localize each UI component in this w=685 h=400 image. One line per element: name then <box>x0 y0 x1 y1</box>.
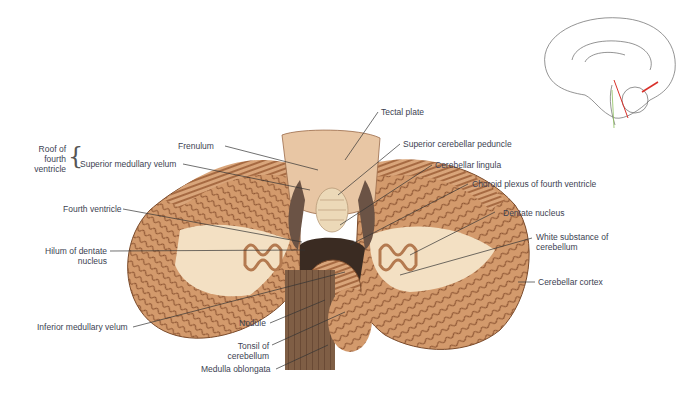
hilum-line-2: nucleus <box>30 256 107 266</box>
white-substance-line-1: White substance of <box>536 232 608 242</box>
label-hilum-of-dentate-nucleus: Hilum of dentate nucleus <box>30 246 107 266</box>
label-cerebellar-cortex: Cerebellar cortex <box>538 277 603 287</box>
label-fourth-ventricle: Fourth ventricle <box>63 204 122 214</box>
label-medulla-oblongata: Medulla oblongata <box>201 364 270 374</box>
midbrain <box>282 130 380 250</box>
anatomy-figure: Tectal plate Frenulum Superior cerebella… <box>0 0 685 400</box>
tonsil <box>328 288 372 352</box>
label-cerebellar-lingula: Cerebellar lingula <box>435 160 501 170</box>
tonsil-line-2: cerebellum <box>224 351 269 361</box>
label-choroid-plexus: Choroid plexus of fourth ventricle <box>472 179 596 189</box>
label-dentate-nucleus: Dentate nucleus <box>503 208 564 218</box>
label-superior-medullary-velum: Superior medullary velum <box>80 159 176 169</box>
tonsil-line-1: Tonsil of <box>224 341 269 351</box>
left-hemisphere <box>128 160 300 338</box>
roof-line-3: ventricle <box>30 164 66 174</box>
label-inferior-medullary-velum: Inferior medullary velum <box>37 322 128 332</box>
label-frenulum: Frenulum <box>178 141 214 151</box>
white-substance-line-2: cerebellum <box>536 242 608 252</box>
label-tonsil-of-cerebellum: Tonsil of cerebellum <box>224 341 269 361</box>
label-roof-of-fourth-ventricle: Roof of fourth ventricle <box>30 144 66 174</box>
label-superior-cerebellar-peduncle: Superior cerebellar peduncle <box>403 139 512 149</box>
label-white-substance: White substance of cerebellum <box>536 232 608 252</box>
hilum-line-1: Hilum of dentate <box>30 246 107 256</box>
label-tectal-plate: Tectal plate <box>381 107 424 117</box>
label-nodule: Nodule <box>239 318 266 328</box>
roof-line-1: Roof of <box>30 144 66 154</box>
cerebellum-illustration <box>0 0 685 400</box>
inset-brain-outline <box>545 18 676 125</box>
roof-line-2: fourth <box>30 154 66 164</box>
